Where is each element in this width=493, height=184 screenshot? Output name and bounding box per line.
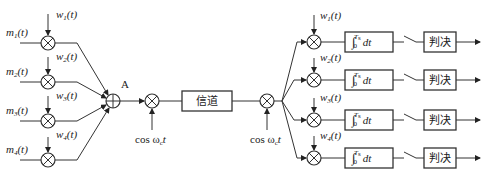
carrier-label-rx: cos ωct: [250, 133, 282, 147]
sampling-switch: [404, 36, 424, 42]
carrier-label-tx: cos ωct: [135, 133, 167, 147]
rx-code-w1-label: w1(t): [320, 9, 342, 23]
decision-label: 判决: [429, 36, 451, 49]
sampling-switch: [404, 74, 424, 80]
summer-node: A: [106, 78, 144, 108]
decision-label: 判决: [429, 74, 451, 87]
cdma-system-diagram: m1(t) w1(t) m2(t) w2(t) m3(t) w3(t) m4(t…: [0, 0, 493, 184]
rx-branch-4: w4(t) ∫0Tsdt 判决: [307, 129, 480, 168]
decision-label: 判决: [429, 114, 451, 127]
code-w2-label: w2(t): [56, 50, 78, 64]
tx-branch-4: m4(t) w4(t): [6, 108, 109, 167]
sampling-switch: [404, 114, 424, 120]
node-a-label: A: [121, 78, 129, 90]
rx-code-w4-label: w4(t): [320, 129, 342, 143]
input-m3-label: m3(t): [6, 104, 28, 118]
rx-code-w3-label: w3(t): [320, 91, 342, 105]
rx-branch-3: w3(t) ∫0Tsdt 判决: [307, 91, 480, 130]
rx-code-w2-label: w2(t): [320, 51, 342, 65]
fanout: [282, 42, 306, 158]
code-w1-label: w1(t): [56, 8, 78, 22]
rx-branch-1: w1(t) ∫0Tsdt 判决: [307, 9, 480, 52]
demodulator: cos ωct: [250, 94, 282, 147]
channel-label: 信道: [196, 94, 218, 108]
code-w3-label: w3(t): [56, 89, 78, 103]
decision-label: 判决: [429, 152, 451, 165]
channel-block: 信道: [182, 91, 260, 111]
modulator: cos ωct: [135, 94, 182, 147]
rx-branch-2: w2(t) ∫0Tsdt 判决: [307, 51, 480, 90]
tx-branch-3: m3(t) w3(t): [6, 89, 106, 128]
sampling-switch: [404, 152, 424, 158]
input-m2-label: m2(t): [6, 65, 28, 79]
code-w4-label: w4(t): [56, 128, 78, 142]
input-m1-label: m1(t): [6, 26, 28, 40]
input-m4-label: m4(t): [6, 143, 28, 157]
